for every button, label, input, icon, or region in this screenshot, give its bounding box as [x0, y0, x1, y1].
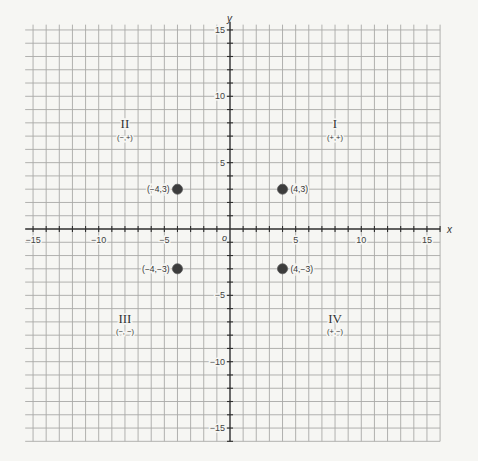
- y-tick-label: −5: [215, 290, 225, 300]
- x-tick-label: 15: [422, 235, 432, 245]
- coordinate-plane: −15−10−55101515105−5−10−15 I(+,+)II(−,+)…: [0, 0, 478, 461]
- y-tick-label: 10: [215, 91, 225, 101]
- y-tick-label: 5: [220, 158, 225, 168]
- point-label: (−4,3): [147, 184, 170, 194]
- x-axis-label: x: [446, 224, 453, 235]
- quadrant-iii-numeral: III: [118, 311, 131, 326]
- point-label: (4,−3): [291, 264, 314, 274]
- y-axis-label: y: [226, 13, 233, 24]
- grid: [25, 25, 440, 442]
- x-tick-label: −5: [159, 235, 169, 245]
- axes: [25, 22, 440, 442]
- quadrant-i-signs: (+,+): [327, 133, 343, 142]
- quadrant-ii-signs: (−,+): [117, 133, 133, 142]
- x-tick-label: 5: [293, 235, 298, 245]
- y-tick-label: −10: [210, 357, 225, 367]
- quadrant-ii-numeral: II: [121, 116, 130, 131]
- quadrant-iii-signs: (−, −): [116, 327, 134, 336]
- point-label: (4,3): [291, 184, 309, 194]
- quadrant-iv-signs: (+,−): [327, 327, 343, 336]
- x-tick-label: −15: [25, 235, 40, 245]
- data-point: [172, 184, 182, 194]
- y-tick-label: −15: [210, 423, 225, 433]
- x-tick-label: 10: [356, 235, 366, 245]
- data-point: [278, 184, 288, 194]
- y-tick-label: 15: [215, 25, 225, 35]
- data-point: [172, 264, 182, 274]
- origin-label: o: [222, 233, 227, 243]
- data-point: [278, 264, 288, 274]
- x-tick-label: −10: [91, 235, 106, 245]
- quadrant-iv-numeral: IV: [328, 311, 342, 326]
- point-label: (−4,−3): [142, 264, 170, 274]
- quadrant-i-numeral: I: [333, 116, 337, 131]
